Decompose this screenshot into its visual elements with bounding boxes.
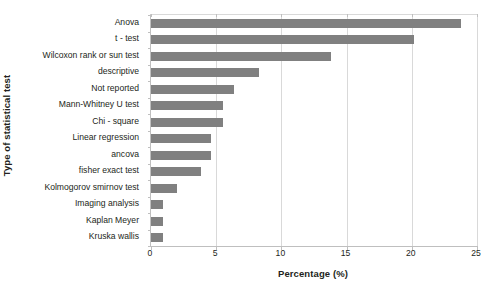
category-label: Anova (16, 14, 144, 31)
category-label: Wilcoxon rank or sun test (16, 47, 144, 64)
bar (151, 200, 163, 209)
category-label: Imaging analysis (16, 196, 144, 213)
bar-row (151, 213, 477, 230)
bar-row (151, 147, 477, 164)
bar (151, 85, 234, 94)
category-label: t - test (16, 31, 144, 48)
bar (151, 233, 163, 242)
bar (151, 52, 331, 61)
bar (151, 151, 211, 160)
category-label: Not reported (16, 80, 144, 97)
bar-row (151, 48, 477, 65)
bar (151, 19, 461, 28)
axis-tick-top (477, 14, 478, 17)
bar (151, 35, 414, 44)
bar (151, 217, 163, 226)
x-axis-tick-label: 10 (276, 249, 286, 258)
axis-tick-left (148, 246, 151, 247)
x-axis-tick-labels: 0510152025 (150, 249, 476, 261)
bar-row (151, 15, 477, 32)
bar (151, 101, 223, 110)
bar-chart-figure: Type of statistical test Anovat - testWi… (0, 0, 495, 294)
bar-row (151, 81, 477, 98)
category-label: fisher exact test (16, 163, 144, 180)
bar (151, 118, 223, 127)
bar-row (151, 230, 477, 247)
bar (151, 68, 259, 77)
bar-row (151, 32, 477, 49)
bar-series (151, 15, 477, 246)
bar (151, 167, 201, 176)
y-axis-title: Type of statistical test (0, 0, 14, 250)
category-label: Kruska wallis (16, 229, 144, 246)
category-label: Kaplan Meyer (16, 212, 144, 229)
bar-row (151, 180, 477, 197)
category-label: Kolmogorov smirnov test (16, 179, 144, 196)
plot-area (150, 14, 477, 247)
category-label: Linear regression (16, 130, 144, 147)
x-axis-tick-label: 5 (213, 249, 218, 258)
x-axis-tick-label: 0 (148, 249, 153, 258)
bar-row (151, 65, 477, 82)
bar (151, 184, 177, 193)
category-label: descriptive (16, 64, 144, 81)
bar (151, 134, 211, 143)
x-axis-tick-label: 25 (471, 249, 481, 258)
category-label: Mann-Whitney U test (16, 97, 144, 114)
bar-row (151, 197, 477, 214)
bar-row (151, 98, 477, 115)
x-axis-tick-label: 15 (341, 249, 351, 258)
bar-row (151, 114, 477, 131)
category-label: Chi - square (16, 113, 144, 130)
x-axis-tick-label: 20 (406, 249, 416, 258)
bar-row (151, 164, 477, 181)
x-axis-title: Percentage (%) (150, 268, 476, 279)
y-axis-title-text: Type of statistical test (2, 74, 13, 175)
gridline (477, 15, 478, 246)
y-axis-category-labels: Anovat - testWilcoxon rank or sun testde… (16, 14, 144, 245)
category-label: ancova (16, 146, 144, 163)
bar-row (151, 131, 477, 148)
